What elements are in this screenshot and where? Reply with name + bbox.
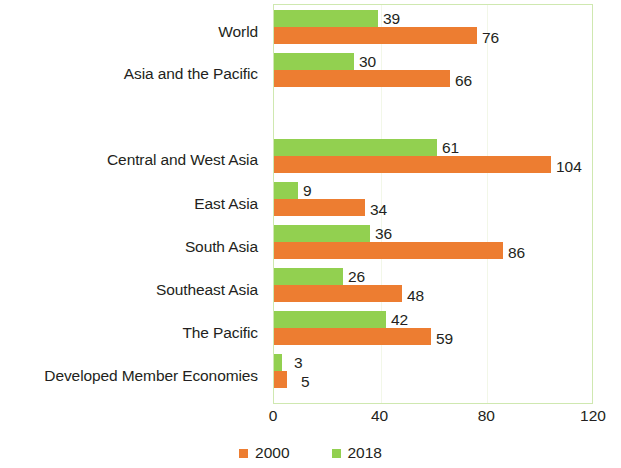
bar-2018-asia-pacific [274,53,354,70]
value-label-2018-the-pacific: 42 [391,312,408,328]
value-label-2000-the-pacific: 59 [436,331,453,347]
value-label-2000-east-asia: 34 [370,202,387,218]
value-label-2000-asia-pacific: 66 [455,73,472,89]
value-label-2018-southeast-asia: 26 [348,269,365,285]
gridline-80 [487,5,488,403]
bar-chart: World Asia and the Pacific Central and W… [0,0,621,468]
legend-label-2000: 2000 [255,445,289,461]
legend-item-2018: 2018 [332,445,382,461]
category-label: Developed Member Economies [44,368,258,384]
x-tick-0: 0 [269,408,278,424]
x-axis: 0 40 80 120 [273,404,593,430]
category-label: Asia and the Pacific [124,66,258,82]
value-label-2000-world: 76 [482,30,499,46]
bar-2000-southeast-asia [274,285,402,302]
value-label-2000-developed-member-economies: 5 [301,374,310,390]
category-label: Central and West Asia [107,152,258,168]
legend-item-2000: 2000 [239,445,289,461]
legend-swatch-icon-2000 [239,449,248,458]
value-label-2018-east-asia: 9 [303,183,312,199]
bar-2018-southeast-asia [274,268,343,285]
category-axis: World Asia and the Pacific Central and W… [0,0,266,404]
x-tick-40: 40 [371,408,388,424]
legend-swatch-icon-2018 [332,449,341,458]
bar-2018-east-asia [274,182,298,199]
value-label-2018-central-west-asia: 61 [442,140,459,156]
value-label-2018-asia-pacific: 30 [359,54,376,70]
value-label-2000-south-asia: 86 [508,245,525,261]
legend-label-2018: 2018 [348,445,382,461]
category-label: Southeast Asia [156,282,258,298]
bar-2018-south-asia [274,225,370,242]
bar-2000-developed-member-economies [274,371,287,388]
category-label: The Pacific [182,325,258,341]
bar-2018-the-pacific [274,311,386,328]
bar-2018-developed-member-economies [274,354,282,371]
bar-2000-east-asia [274,199,365,216]
value-label-2000-central-west-asia: 104 [556,159,582,175]
value-label-2018-world: 39 [383,11,400,27]
bar-2018-central-west-asia [274,139,437,156]
bar-2000-asia-pacific [274,70,450,87]
x-tick-80: 80 [478,408,495,424]
x-tick-120: 120 [580,408,606,424]
bar-2000-the-pacific [274,328,431,345]
category-label: World [218,24,258,40]
bar-2000-world [274,27,477,44]
value-label-2000-southeast-asia: 48 [407,288,424,304]
bar-2000-south-asia [274,242,503,259]
chart-legend: 2000 2018 [0,442,621,464]
value-label-2018-developed-member-economies: 3 [294,355,303,371]
bar-2018-world [274,10,378,27]
category-label: South Asia [185,239,258,255]
category-label: East Asia [194,196,258,212]
bar-2000-central-west-asia [274,156,551,173]
value-label-2018-south-asia: 36 [375,226,392,242]
plot-area: 39 76 30 66 61 104 9 34 36 86 26 48 42 5… [273,4,593,404]
